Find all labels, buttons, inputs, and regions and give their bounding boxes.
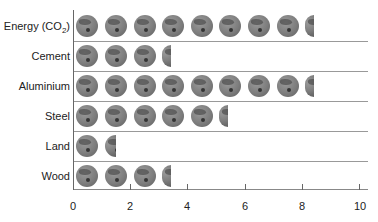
- pictogram-chart: Energy (CO2) Cement Aluminium Steel Land…: [0, 0, 378, 222]
- globe-icon: [191, 15, 213, 37]
- globe-icon: [162, 45, 171, 67]
- globe-icon: [219, 105, 228, 127]
- globe-icon: [305, 15, 314, 37]
- row-divider: [74, 131, 368, 132]
- globe-icon: [105, 165, 127, 187]
- x-tick-label: 8: [299, 200, 305, 212]
- globe-icon: [162, 105, 184, 127]
- x-tick: [359, 184, 360, 190]
- row-divider: [74, 41, 368, 42]
- globe-icon: [76, 135, 98, 157]
- globe-icon: [219, 75, 241, 97]
- globe-icon: [76, 15, 98, 37]
- globe-icon: [305, 75, 314, 97]
- x-tick-label: 2: [127, 200, 133, 212]
- globe-icon: [277, 15, 299, 37]
- x-tick-label: 6: [242, 200, 248, 212]
- globe-icon: [105, 45, 127, 67]
- globe-icon: [248, 75, 270, 97]
- row-divider: [74, 101, 368, 102]
- globe-icon: [134, 105, 156, 127]
- row-label-cement: Cement: [31, 50, 70, 62]
- x-tick-label: 10: [354, 200, 366, 212]
- globe-icon: [134, 75, 156, 97]
- row-label-energy: Energy (CO2): [4, 20, 70, 35]
- globe-icon: [162, 15, 184, 37]
- globe-icon: [76, 45, 98, 67]
- globe-icon: [105, 135, 116, 157]
- x-tick: [130, 184, 131, 190]
- globe-icon: [219, 15, 241, 37]
- globe-icon: [191, 105, 213, 127]
- globe-icon: [105, 105, 127, 127]
- globe-icon: [76, 105, 98, 127]
- x-tick-label: 0: [70, 200, 76, 212]
- globe-icon: [76, 75, 98, 97]
- row-divider: [74, 71, 368, 72]
- row-label-aluminium: Aluminium: [19, 80, 70, 92]
- globe-icon: [191, 75, 213, 97]
- globe-icon: [248, 15, 270, 37]
- x-tick: [187, 184, 188, 190]
- row-divider: [74, 161, 368, 162]
- x-tick: [73, 184, 74, 190]
- x-tick-label: 4: [184, 200, 190, 212]
- row-label-steel: Steel: [45, 110, 70, 122]
- globe-icon: [134, 45, 156, 67]
- globe-icon: [277, 75, 299, 97]
- globe-icon: [105, 75, 127, 97]
- globe-icon: [162, 165, 171, 187]
- x-tick: [245, 184, 246, 190]
- x-tick: [302, 184, 303, 190]
- x-axis: [73, 189, 368, 190]
- globe-icon: [162, 75, 184, 97]
- row-label-land: Land: [46, 140, 70, 152]
- globe-icon: [134, 165, 156, 187]
- y-axis: [73, 10, 74, 190]
- globe-icon: [76, 165, 98, 187]
- globe-icon: [134, 15, 156, 37]
- row-label-wood: Wood: [41, 170, 70, 182]
- globe-icon: [105, 15, 127, 37]
